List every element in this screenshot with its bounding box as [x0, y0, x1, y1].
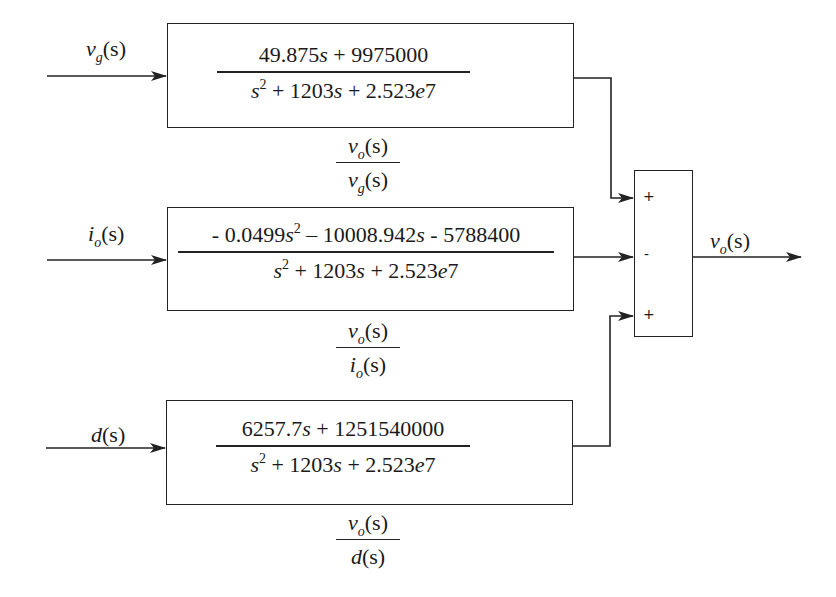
subscript: o — [358, 524, 365, 539]
symbol: d — [351, 544, 362, 569]
var: s — [333, 452, 342, 477]
term: + 2.523 — [342, 452, 415, 477]
coef: 49.875 — [259, 42, 320, 67]
caption-den: d(s) — [351, 544, 385, 570]
term: + 2.523 — [342, 78, 415, 103]
subscript: g — [358, 181, 365, 196]
symbol: v — [710, 228, 720, 253]
var: s — [273, 258, 282, 283]
symbol: v — [348, 510, 358, 535]
denominator: s2 + 1203s + 2.523e7 — [250, 454, 435, 476]
var: s — [356, 258, 365, 283]
sign-plus-top: + — [643, 188, 655, 204]
arg: (s) — [365, 318, 388, 343]
wire-d-to-sum — [572, 316, 633, 446]
denominator: s2 + 1203s + 2.523e7 — [273, 260, 458, 282]
var: s — [319, 42, 328, 67]
caption-num: vo(s) — [348, 510, 388, 536]
arg: (s) — [362, 544, 385, 569]
caption-num: vo(s) — [348, 133, 388, 159]
subscript: o — [356, 366, 363, 381]
arg: (s) — [363, 352, 386, 377]
exp: 2 — [259, 451, 266, 466]
var: s — [250, 452, 259, 477]
denominator: s2 + 1203s + 2.523e7 — [251, 80, 436, 102]
numerator: 6257.7s + 1251540000 — [242, 418, 444, 440]
symbol: d — [91, 422, 102, 447]
subscript: g — [96, 50, 103, 65]
arg: (s) — [101, 221, 124, 246]
term: + 1251540000 — [311, 416, 444, 441]
arg: (s) — [365, 133, 388, 158]
transfer-function-vg: 49.875s + 9975000 s2 + 1203s + 2.523e7 — [217, 44, 470, 102]
symbol: v — [348, 133, 358, 158]
caption-den: io(s) — [350, 352, 386, 378]
exp-val: 7 — [425, 452, 436, 477]
fraction-bar — [336, 162, 400, 163]
arg: (s) — [103, 36, 126, 61]
numerator: - 0.0499s2 – 10008.942s - 5788400 — [212, 224, 520, 246]
symbol: v — [348, 318, 358, 343]
coef: - 0.0499 — [212, 222, 285, 247]
symbol: v — [86, 36, 96, 61]
subscript: o — [358, 147, 365, 162]
subscript: o — [94, 235, 101, 250]
sign-minus-middle: - — [644, 246, 649, 262]
arg: (s) — [727, 228, 750, 253]
wire-vg-to-sum — [573, 78, 633, 198]
exp-val: 7 — [448, 258, 459, 283]
arg: (s) — [365, 167, 388, 192]
exp: 2 — [259, 77, 266, 92]
arg: (s) — [102, 422, 125, 447]
var: s — [285, 222, 294, 247]
transfer-function-d: 6257.7s + 1251540000 s2 + 1203s + 2.523e… — [216, 418, 470, 476]
input-label-io: io(s) — [88, 221, 124, 247]
numerator: 49.875s + 9975000 — [259, 44, 428, 66]
symbol: v — [348, 167, 358, 192]
term: + 1203 — [266, 78, 333, 103]
input-label-vg: vg(s) — [86, 36, 126, 62]
term: + 9975000 — [328, 42, 428, 67]
var: s — [416, 222, 425, 247]
fraction-bar — [217, 71, 470, 73]
exp: 2 — [294, 221, 301, 236]
sign-plus-bottom: + — [643, 306, 655, 322]
term: – 10008.942 — [301, 222, 417, 247]
subscript: o — [720, 242, 727, 257]
input-label-d: d(s) — [91, 422, 125, 448]
caption-vo-over-d: vo(s) d(s) — [336, 510, 400, 570]
fraction-bar — [178, 251, 554, 253]
term: + 1203 — [266, 452, 333, 477]
caption-den: vg(s) — [348, 167, 388, 193]
output-label-vo: vo(s) — [710, 228, 750, 254]
e: e — [415, 78, 425, 103]
caption-vo-over-vg: vo(s) vg(s) — [336, 133, 400, 193]
caption-num: vo(s) — [348, 318, 388, 344]
e: e — [438, 258, 448, 283]
coef: 6257.7 — [242, 416, 303, 441]
var: s — [302, 416, 311, 441]
caption-vo-over-io: vo(s) io(s) — [336, 318, 400, 378]
transfer-function-io: - 0.0499s2 – 10008.942s - 5788400 s2 + 1… — [178, 224, 554, 282]
arg: (s) — [365, 510, 388, 535]
exp: 2 — [282, 257, 289, 272]
fraction-bar — [336, 539, 400, 540]
term: + 2.523 — [365, 258, 438, 283]
term: - 5788400 — [425, 222, 520, 247]
fraction-bar — [336, 347, 400, 348]
subscript: o — [358, 332, 365, 347]
term: + 1203 — [289, 258, 356, 283]
e: e — [415, 452, 425, 477]
exp-val: 7 — [425, 78, 436, 103]
fraction-bar — [216, 445, 470, 447]
